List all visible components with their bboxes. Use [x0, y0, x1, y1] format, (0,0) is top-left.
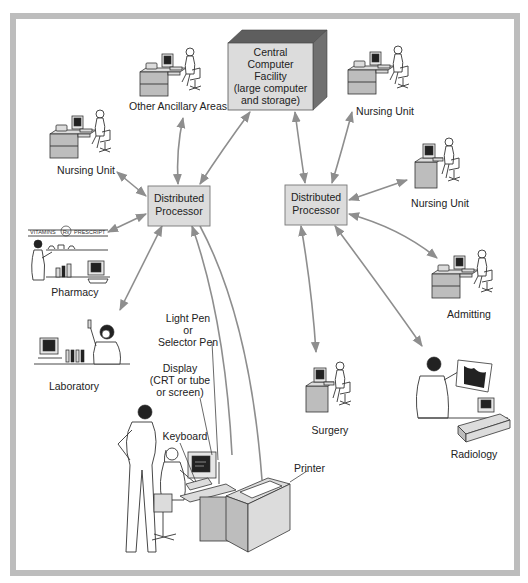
- station-laboratory: Laboratory: [34, 320, 130, 392]
- station-nursing-unit-top-right: Nursing Unit: [348, 46, 414, 117]
- keyboard-icon: [186, 478, 212, 490]
- station-surgery: Surgery: [306, 362, 351, 436]
- workstation-icon: [432, 250, 493, 298]
- printer-icon: [226, 478, 290, 552]
- station-admitting: Admitting: [432, 250, 493, 320]
- station-radiology: Radiology: [416, 357, 510, 460]
- distributed-processor-left: Distributed Processor: [148, 186, 210, 226]
- workstation-icon: [140, 48, 201, 96]
- dp-left-line-1: Distributed: [154, 192, 204, 204]
- label-light-pen-3: Selector Pen: [158, 336, 218, 348]
- label-light-pen-1: Light Pen: [166, 312, 211, 324]
- standing-man-icon: [118, 405, 156, 552]
- hospital-network-diagram: Central Computer Facility (large compute…: [0, 0, 528, 583]
- label-keyboard: Keyboard: [163, 430, 208, 442]
- label-display-3: or screen): [156, 386, 203, 398]
- radiologist-icon: [416, 357, 510, 442]
- workstation-icon: [50, 110, 111, 158]
- pharmacy-sign: VITAMINS Rx PRESCRIPT: [28, 226, 108, 236]
- central-box-line-3: Facility: [254, 70, 287, 82]
- label-radiology: Radiology: [451, 448, 498, 460]
- dp-right-line-2: Processor: [292, 204, 340, 216]
- central-computer-facility: Central Computer Facility (large compute…: [228, 30, 327, 110]
- pharmacist-icon: [32, 240, 110, 283]
- dp-right-line-1: Distributed: [291, 191, 341, 203]
- distributed-processor-right: Distributed Processor: [285, 185, 347, 225]
- label-light-pen-2: or: [183, 324, 193, 336]
- workstation-icon: [415, 138, 460, 188]
- pharmacy-sign-rx: Rx: [63, 229, 70, 235]
- station-pharmacy: VITAMINS Rx PRESCRIPT Pharmacy: [28, 226, 110, 298]
- label-laboratory: Laboratory: [49, 380, 100, 392]
- connection-arrows: [108, 112, 437, 480]
- label-admitting: Admitting: [447, 308, 491, 320]
- label-other-ancillary-areas: Other Ancillary Areas: [129, 100, 227, 112]
- label-nursing-unit-left: Nursing Unit: [57, 164, 115, 176]
- label-nursing-unit-top-right: Nursing Unit: [356, 105, 414, 117]
- label-nursing-unit-right: Nursing Unit: [411, 197, 469, 209]
- workstation-icon: [306, 362, 351, 412]
- central-box-line-4: (large computer: [234, 82, 308, 94]
- workstation-icon: [348, 46, 409, 94]
- label-surgery: Surgery: [312, 424, 350, 436]
- central-box-top-face: [228, 30, 327, 43]
- central-box-line-2: Computer: [247, 58, 294, 70]
- label-pharmacy: Pharmacy: [51, 286, 99, 298]
- station-other-ancillary-areas: Other Ancillary Areas: [129, 48, 227, 112]
- dp-left-line-2: Processor: [155, 205, 203, 217]
- station-nursing-unit-right: Nursing Unit: [411, 138, 469, 209]
- label-printer: Printer: [294, 462, 325, 474]
- pharmacy-sign-vitamins: VITAMINS: [30, 229, 56, 235]
- central-box-line-5: and storage): [241, 94, 300, 106]
- label-display-2: (CRT or tube: [150, 374, 210, 386]
- lab-technician-icon: [34, 320, 130, 364]
- central-box-side-face: [313, 30, 327, 110]
- label-display-1: Display: [163, 362, 198, 374]
- station-nursing-unit-left: Nursing Unit: [50, 110, 115, 176]
- pharmacy-sign-prescript: PRESCRIPT: [74, 229, 106, 235]
- central-box-line-1: Central: [254, 46, 288, 58]
